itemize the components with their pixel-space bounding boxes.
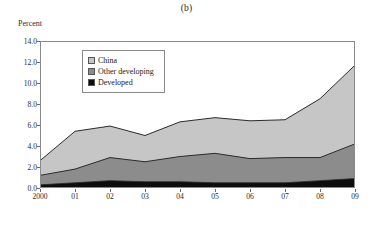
y-tick-label: 14.0 — [3, 37, 37, 46]
legend-item: Developed — [88, 77, 154, 88]
legend-swatch-icon — [88, 57, 95, 64]
x-tick-mark — [215, 189, 216, 192]
legend-item-label: China — [98, 55, 117, 66]
x-axis-ticks: 2000010203040506070809 — [40, 189, 355, 209]
x-tick-mark — [40, 189, 41, 192]
x-tick-mark — [250, 189, 251, 192]
chart-legend: ChinaOther developingDeveloped — [82, 50, 165, 93]
x-tick-mark — [180, 189, 181, 192]
x-tick-mark — [75, 189, 76, 192]
legend-item-label: Other developing — [98, 66, 154, 77]
x-tick-mark — [320, 189, 321, 192]
y-axis-ticks: 0.02.04.06.08.010.012.014.0 — [0, 41, 37, 188]
x-tick-label: 07 — [281, 192, 289, 201]
x-tick-label: 04 — [176, 192, 184, 201]
x-tick-label: 01 — [71, 192, 79, 201]
x-tick-label: 06 — [246, 192, 254, 201]
x-tick-mark — [110, 189, 111, 192]
x-tick-label: 09 — [351, 192, 359, 201]
x-tick-label: 05 — [211, 192, 219, 201]
page-title: (b) — [0, 3, 373, 13]
x-tick-label: 03 — [141, 192, 149, 201]
y-tick-label: 2.0 — [3, 163, 37, 172]
y-tick-label: 10.0 — [3, 79, 37, 88]
x-tick-label: 2000 — [32, 192, 47, 201]
legend-item: China — [88, 55, 154, 66]
y-tick-label: 4.0 — [3, 142, 37, 151]
x-tick-label: 02 — [106, 192, 114, 201]
x-tick-label: 08 — [316, 192, 324, 201]
x-tick-mark — [285, 189, 286, 192]
x-tick-mark — [145, 189, 146, 192]
legend-swatch-icon — [88, 68, 95, 75]
legend-item-label: Developed — [98, 77, 133, 88]
y-tick-label: 12.0 — [3, 58, 37, 67]
y-axis-title: Percent — [18, 19, 42, 28]
legend-item: Other developing — [88, 66, 154, 77]
x-tick-mark — [355, 189, 356, 192]
y-tick-label: 6.0 — [3, 121, 37, 130]
y-tick-label: 8.0 — [3, 100, 37, 109]
legend-swatch-icon — [88, 79, 95, 86]
figure-panel-b: (b) Percent 0.02.04.06.08.010.012.014.0 … — [0, 0, 373, 226]
